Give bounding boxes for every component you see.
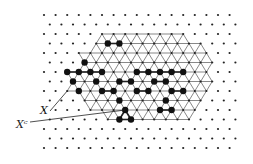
region-edge — [137, 53, 143, 63]
lattice-dot — [43, 128, 45, 130]
region-edge — [195, 82, 201, 92]
lattice-dot — [78, 147, 80, 149]
lattice-dot — [43, 147, 45, 149]
lattice-dot — [78, 109, 80, 111]
black-site — [76, 69, 82, 75]
region-edge — [90, 101, 96, 111]
lattice-dot — [55, 14, 57, 16]
lattice-dot — [159, 147, 161, 149]
lattice-dot — [159, 90, 161, 92]
region-edge — [183, 53, 189, 63]
black-site — [157, 69, 163, 75]
lattice-dot — [43, 71, 45, 73]
lattice-dot — [78, 128, 80, 130]
region-edge — [143, 101, 149, 111]
lattice-dot — [78, 14, 80, 16]
lattice-dot — [217, 147, 219, 149]
lattice-dot — [229, 128, 231, 130]
lattice-dot — [165, 42, 167, 44]
region-edge — [201, 82, 207, 92]
region-edge — [125, 63, 131, 73]
black-site — [99, 88, 105, 94]
lattice-dot — [217, 14, 219, 16]
lattice-dot — [182, 14, 184, 16]
black-site — [116, 97, 122, 103]
lattice-dot — [171, 33, 173, 35]
lattice-dot — [101, 14, 103, 16]
lattice-dot — [182, 147, 184, 149]
region-edge — [114, 53, 120, 63]
lattice-dot — [95, 118, 97, 120]
region-edge — [108, 53, 114, 63]
lattice-dot — [159, 128, 161, 130]
lattice-dot — [223, 118, 225, 120]
lattice-dot — [113, 147, 115, 149]
lattice-dot — [130, 137, 132, 139]
lattice-dot — [223, 61, 225, 63]
lattice-dot — [188, 61, 190, 63]
lattice-dot — [229, 33, 231, 35]
lattice-dot — [194, 52, 196, 54]
lattice-dot — [153, 99, 155, 101]
region-edge — [201, 91, 207, 101]
lattice-dot — [229, 14, 231, 16]
lattice-dot — [147, 14, 149, 16]
region-edge — [96, 44, 102, 54]
black-site — [151, 78, 157, 84]
lattice-dot — [124, 52, 126, 54]
lattice-dot — [107, 80, 109, 82]
lattice-dot — [95, 99, 97, 101]
lattice-dot — [211, 137, 213, 139]
region-edge — [143, 53, 149, 63]
black-site — [134, 69, 140, 75]
region-edge — [131, 34, 137, 44]
lattice-dot — [60, 23, 62, 25]
lattice-dot — [60, 61, 62, 63]
lattice-dot — [43, 52, 45, 54]
region-edge — [195, 72, 201, 82]
black-site — [93, 78, 99, 84]
lattice-dot — [78, 33, 80, 35]
lattice-dot — [136, 147, 138, 149]
region-edge — [189, 91, 195, 101]
black-site — [110, 88, 116, 94]
lattice-dot — [43, 14, 45, 16]
region-edge — [154, 91, 160, 101]
region-edge — [160, 34, 166, 44]
lattice-dot — [66, 14, 68, 16]
lattice-dot — [147, 52, 149, 54]
region-edge — [125, 34, 131, 44]
lattice-dot — [95, 23, 97, 25]
lattice-dot — [60, 118, 62, 120]
region-edge — [166, 44, 172, 54]
region-edge — [189, 63, 195, 73]
region-edge — [177, 34, 183, 44]
lattice-dot — [142, 61, 144, 63]
lattice-dot — [182, 52, 184, 54]
lattice-dot — [182, 109, 184, 111]
lattice-dot — [66, 128, 68, 130]
lattice-dot — [194, 33, 196, 35]
lattice-dot — [194, 71, 196, 73]
lattice-dot — [159, 33, 161, 35]
lattice-dot — [211, 118, 213, 120]
region-edge — [102, 101, 108, 111]
region-edge — [195, 101, 201, 111]
lattice-dot — [55, 128, 57, 130]
black-site — [81, 59, 87, 65]
lattice-dot — [205, 90, 207, 92]
lattice-dot — [147, 109, 149, 111]
lattice-dot — [234, 61, 236, 63]
lattice-dot — [130, 61, 132, 63]
lattice-dot — [229, 109, 231, 111]
lattice-dot — [89, 147, 91, 149]
region-edge — [85, 101, 91, 111]
lattice-dot — [165, 23, 167, 25]
pointer-line-x — [50, 91, 67, 111]
lattice-dot — [171, 14, 173, 16]
lattice-dot — [142, 23, 144, 25]
lattice-dot — [113, 33, 115, 35]
lattice-dot — [124, 33, 126, 35]
lattice-dot — [217, 128, 219, 130]
lattice-dot — [171, 147, 173, 149]
